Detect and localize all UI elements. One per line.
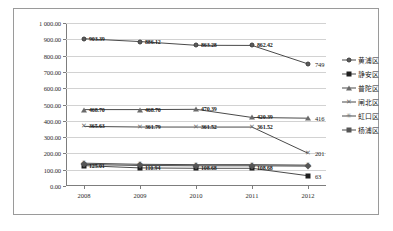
data-point-marker [194, 43, 199, 48]
x-axis-tick [196, 186, 197, 189]
legend-marker-icon [342, 126, 356, 134]
data-label: 365.63 [89, 123, 105, 129]
x-axis-tick [308, 186, 309, 189]
x-axis-label: 2011 [246, 192, 259, 199]
legend-item[interactable]: 杨浦区 [342, 123, 390, 137]
data-label: 863.28 [201, 42, 217, 48]
data-label: 903.39 [89, 36, 105, 42]
x-axis-label: 2009 [134, 192, 147, 199]
data-point-marker [249, 115, 255, 120]
chart-frame: 0.00100.00200.00300.00400.00500.00600.00… [13, 8, 379, 215]
legend-item[interactable]: 普陀区 [342, 81, 390, 95]
data-label: 468.70 [89, 107, 105, 113]
legend-label: 黄浦区 [358, 55, 379, 65]
y-axis-label: 900.00 [44, 36, 61, 43]
legend-label: 普陀区 [358, 83, 379, 93]
data-point-marker: ✕ [193, 124, 199, 130]
data-label: 108.68 [201, 165, 217, 171]
legend-label: 杨浦区 [358, 125, 379, 135]
x-axis-label: 2012 [302, 192, 315, 199]
legend-item[interactable]: 黄浦区 [342, 53, 390, 67]
plot-inner: 0.00100.00200.00300.00400.00500.00600.00… [66, 23, 326, 186]
data-point-marker [306, 173, 311, 178]
plot-area: 0.00100.00200.00300.00400.00500.00600.00… [66, 23, 326, 186]
y-axis-label: 600.00 [44, 85, 61, 92]
legend-marker-icon: ✕ [342, 98, 356, 106]
data-point-marker [138, 39, 143, 44]
data-label: 361.79 [145, 124, 161, 130]
data-label: 110.94 [145, 165, 160, 171]
data-label: 201 [315, 150, 324, 157]
data-label: 749 [315, 60, 324, 67]
data-point-marker [193, 107, 199, 112]
data-label: 361.52 [257, 124, 273, 130]
legend-marker-icon [342, 84, 356, 92]
legend-marker-icon [342, 56, 356, 64]
legend-label: 虹口区 [358, 111, 379, 121]
y-axis-label: 700.00 [44, 68, 61, 75]
y-axis-label: 800.00 [44, 52, 61, 59]
y-axis-label: 500.00 [44, 101, 61, 108]
legend-item[interactable]: 静安区 [342, 67, 390, 81]
data-point-marker [306, 61, 311, 66]
data-label: 470.39 [201, 106, 217, 112]
legend-label: 静安区 [358, 69, 379, 79]
legend-label: 闸北区 [358, 97, 379, 107]
legend-item[interactable]: ✕闸北区 [342, 95, 390, 109]
y-axis-label: 300.00 [44, 134, 61, 141]
y-axis-tick [63, 186, 66, 187]
y-axis-label: 1 000.00 [39, 20, 61, 27]
data-label: 361.52 [201, 124, 217, 130]
data-point-marker: ✕ [305, 150, 311, 156]
x-axis-tick [84, 186, 85, 189]
data-point-marker [81, 107, 87, 112]
x-axis-label: 2008 [78, 192, 91, 199]
data-point-marker [250, 43, 255, 48]
data-label: 886.12 [145, 39, 161, 45]
y-axis-label: 400.00 [44, 117, 61, 124]
y-axis-label: 0.00 [50, 183, 61, 190]
y-axis-label: 100.00 [44, 166, 61, 173]
data-label: 420.39 [257, 114, 273, 120]
chart-legend: 黄浦区静安区普陀区✕闸北区✳虹口区杨浦区 [342, 53, 390, 137]
data-label: 125.01 [89, 163, 105, 169]
legend-marker-icon: ✳ [342, 112, 356, 120]
legend-item[interactable]: ✳虹口区 [342, 109, 390, 123]
data-label: 416 [315, 115, 324, 122]
data-point-marker [305, 116, 311, 121]
data-point-marker: ✕ [249, 124, 255, 130]
data-label: 108.68 [257, 165, 273, 171]
data-point-marker [137, 107, 143, 112]
data-label: 63 [315, 172, 321, 179]
data-point-marker: ✕ [137, 124, 143, 130]
y-axis-label: 200.00 [44, 150, 61, 157]
data-label: 862.42 [257, 42, 273, 48]
data-label: 468.70 [145, 107, 161, 113]
x-axis-tick [140, 186, 141, 189]
x-axis-tick [252, 186, 253, 189]
data-point-marker [82, 36, 87, 41]
x-axis-label: 2010 [190, 192, 203, 199]
chart-screenshot: 0.00100.00200.00300.00400.00500.00600.00… [0, 0, 393, 231]
data-point-marker: ✕ [81, 123, 87, 129]
legend-marker-icon [342, 70, 356, 78]
